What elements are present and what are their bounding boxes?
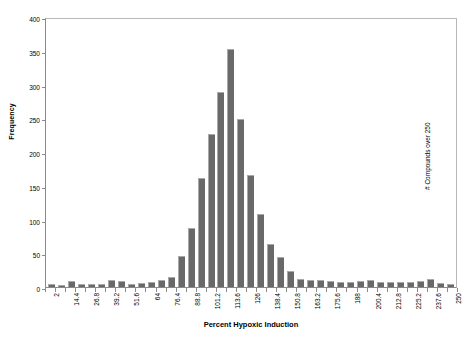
bar xyxy=(237,119,244,287)
x-axis-tick xyxy=(326,288,327,292)
x-axis-tick xyxy=(306,288,307,292)
bar xyxy=(447,284,454,287)
y-axis-tick xyxy=(42,154,46,155)
x-axis-tick xyxy=(176,288,177,292)
y-axis-tick xyxy=(42,19,46,20)
bar xyxy=(178,256,185,287)
bar xyxy=(327,281,334,287)
x-axis-tick xyxy=(316,288,317,292)
x-axis-tick-label: 14.4 xyxy=(73,293,80,306)
chart-container: Frequency 050100150200250300350400 214.4… xyxy=(0,0,474,341)
y-axis-tick-label: 50 xyxy=(33,252,40,259)
x-axis-tick xyxy=(196,288,197,292)
bar xyxy=(307,280,314,287)
y-axis-tick-label: 200 xyxy=(29,151,40,158)
x-axis-tick xyxy=(417,288,418,292)
x-axis-tick xyxy=(367,288,368,292)
x-axis-tick xyxy=(407,288,408,292)
x-axis-tick xyxy=(156,288,157,292)
x-axis-tick xyxy=(95,288,96,292)
x-axis-tick xyxy=(286,288,287,292)
x-axis-tick-label: 175.6 xyxy=(334,293,341,309)
bar xyxy=(217,92,224,287)
x-axis-tick xyxy=(236,288,237,292)
x-axis-tick-label: 126 xyxy=(254,293,261,304)
x-axis-tick xyxy=(457,288,458,292)
x-axis-tick xyxy=(336,288,337,292)
bar xyxy=(337,282,344,287)
x-axis-tick-label: 76.4 xyxy=(174,293,181,306)
y-axis-tick xyxy=(42,120,46,121)
bar xyxy=(297,279,304,287)
x-axis-tick-label: 88.8 xyxy=(194,293,201,306)
x-axis-tick-label: 26.8 xyxy=(93,293,100,306)
bar xyxy=(198,178,205,287)
bar xyxy=(377,282,384,287)
x-axis-tick xyxy=(45,288,46,292)
bar xyxy=(158,280,165,287)
x-axis-tick xyxy=(357,288,358,292)
x-axis-tick xyxy=(85,288,86,292)
x-axis-tick-label: 237.6 xyxy=(435,293,442,309)
x-axis-tick xyxy=(296,288,297,292)
y-axis-tick xyxy=(42,188,46,189)
bar xyxy=(108,280,115,287)
x-axis-tick xyxy=(145,288,146,292)
bar xyxy=(427,279,434,287)
bar xyxy=(417,281,424,287)
x-axis-tick-label: 188 xyxy=(354,293,361,304)
x-axis-tick-label: 150.8 xyxy=(294,293,301,309)
y-axis-title: Frequency xyxy=(8,77,15,167)
overflow-annotation: # Compounds over 250 xyxy=(424,122,431,190)
bar xyxy=(98,284,105,287)
x-axis-tick xyxy=(55,288,56,292)
bar xyxy=(208,134,215,287)
x-axis-tick xyxy=(397,288,398,292)
bar xyxy=(148,282,155,287)
y-axis-tick-label: 150 xyxy=(29,184,40,191)
x-axis-tick-label: 200.4 xyxy=(375,293,382,309)
x-axis-tick-label: 51.6 xyxy=(133,293,140,306)
y-axis-tick-label: 300 xyxy=(29,83,40,90)
x-axis-tick xyxy=(437,288,438,292)
bar xyxy=(68,281,75,287)
x-axis-tick xyxy=(246,288,247,292)
x-axis-tick xyxy=(226,288,227,292)
x-axis-tick xyxy=(447,288,448,292)
bar-series xyxy=(46,19,456,287)
bar xyxy=(88,284,95,287)
x-axis-title: Percent Hypoxic Induction xyxy=(45,320,457,329)
x-axis-tick-label: 163.2 xyxy=(314,293,321,309)
y-axis-tick xyxy=(42,87,46,88)
x-axis-tick xyxy=(125,288,126,292)
x-axis-tick xyxy=(105,288,106,292)
x-axis-tick-label: 212.8 xyxy=(395,293,402,309)
x-axis-tick-label: 250 xyxy=(455,293,462,304)
bar xyxy=(227,49,234,287)
bar xyxy=(437,283,444,287)
x-axis-tick xyxy=(256,288,257,292)
bar xyxy=(118,281,125,287)
x-axis-tick-label: 101.2 xyxy=(214,293,221,309)
x-axis-tick xyxy=(427,288,428,292)
bar xyxy=(357,281,364,287)
x-axis-tick xyxy=(276,288,277,292)
x-axis-tick xyxy=(65,288,66,292)
x-axis-tick xyxy=(346,288,347,292)
bar xyxy=(287,271,294,287)
plot-area: 050100150200250300350400 xyxy=(45,18,457,288)
bar xyxy=(277,257,284,287)
bar xyxy=(78,284,85,287)
bar xyxy=(387,282,394,287)
bar xyxy=(247,175,254,287)
bar xyxy=(407,282,414,287)
x-axis-ticks xyxy=(45,288,457,289)
x-axis-tick xyxy=(266,288,267,292)
y-axis-tick xyxy=(42,255,46,256)
bar xyxy=(48,284,55,287)
bar xyxy=(397,282,404,287)
bar xyxy=(267,244,274,287)
bar xyxy=(168,277,175,287)
x-axis-tick xyxy=(115,288,116,292)
x-axis-tick-label: 225.2 xyxy=(415,293,422,309)
